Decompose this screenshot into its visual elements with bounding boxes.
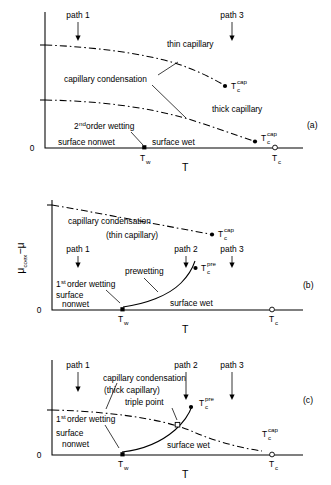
figure-canvas: 0 T c cap T c cap path 1 path 3 thin cap… xyxy=(0,0,331,485)
panel-c-path-2-arrowhead xyxy=(183,395,188,401)
panel-c-triple-point-marker xyxy=(175,422,180,427)
panel-a-cc-leader-lower xyxy=(152,85,186,118)
panel-b-path-1-arrowhead xyxy=(75,263,80,269)
svg-text:w: w xyxy=(145,158,151,165)
panel-b-tc-cap-label: T c cap xyxy=(218,226,235,241)
panel-c-tw-marker xyxy=(120,452,124,456)
panel-c-tc-tick-label: T c xyxy=(269,459,278,471)
svg-text:cap: cap xyxy=(268,426,279,433)
yaxis-coex-sub: coex xyxy=(21,254,28,268)
panel-b-wetting-leader xyxy=(106,290,120,303)
panel-b-path-3-label: path 3 xyxy=(220,244,244,254)
panel-a-label: (a) xyxy=(307,120,318,130)
svg-text:c: c xyxy=(237,86,240,93)
panel-c-path-3-arrowhead xyxy=(229,395,234,401)
panel-a-wetting-leader xyxy=(131,132,143,145)
panel-b-yaxis-label: μcoex−μ xyxy=(14,242,28,273)
panel-c-tw-tick-label: T w xyxy=(118,459,129,471)
svg-text:c: c xyxy=(275,319,278,326)
panel-c: 0 T c cap T c pre path 1 path 2 path 3 c… xyxy=(37,360,313,480)
panel-c-triple-point-leader xyxy=(172,408,177,420)
panel-a-path-1-arrowhead xyxy=(75,36,80,42)
panel-b-surface-nonwet-2: nonwet xyxy=(62,299,90,309)
panel-a-cc-leader-upper xyxy=(158,62,178,75)
panel-c-first-order-wetting-label: 1 st order wetting xyxy=(56,413,116,425)
panel-c-surface-nonwet-2: nonwet xyxy=(62,439,90,449)
svg-text:c: c xyxy=(207,268,210,275)
panel-a-tc-marker xyxy=(273,145,278,150)
panel-c-path-2-label: path 2 xyxy=(174,360,198,370)
svg-text:T: T xyxy=(262,429,267,439)
svg-text:order wetting: order wetting xyxy=(67,279,116,289)
panel-a-tc-cap-thin-marker xyxy=(223,84,227,88)
svg-text:c: c xyxy=(268,434,271,441)
panel-a-surface-nonwet-label: surface nonwet xyxy=(58,137,115,147)
svg-text:order wetting: order wetting xyxy=(86,121,135,131)
panel-a-path-3-label: path 3 xyxy=(220,10,244,20)
panel-b-zero-label: 0 xyxy=(37,305,42,315)
panel-c-wetting-leader xyxy=(105,425,119,448)
panel-c-path-1-label: path 1 xyxy=(66,360,90,370)
panel-c-path-3-label: path 3 xyxy=(220,360,244,370)
panel-c-path-1-arrowhead xyxy=(75,387,80,393)
svg-text:T: T xyxy=(261,133,266,143)
svg-text:c: c xyxy=(275,464,278,471)
panel-a-path-3-arrowhead xyxy=(229,36,234,42)
panel-b-tw-marker xyxy=(120,307,124,311)
svg-text:T: T xyxy=(118,314,123,324)
panel-a-surface-wet-label: surface wet xyxy=(152,137,195,147)
panel-b-path-2-label: path 2 xyxy=(174,244,198,254)
yaxis-mu2: μ xyxy=(14,242,26,248)
panel-a-path-1-label: path 1 xyxy=(66,10,90,20)
svg-text:order wetting: order wetting xyxy=(67,414,116,424)
svg-text:T: T xyxy=(218,229,223,239)
panel-b-first-order-wetting-label: 1 st order wetting xyxy=(56,278,116,290)
panel-b-thin-capillary-paren-label: (thin capillary) xyxy=(106,230,158,240)
svg-text:cap: cap xyxy=(267,130,278,137)
panel-a-capillary-condensation-label: capillary condensation xyxy=(64,74,147,84)
svg-text:T: T xyxy=(269,314,274,324)
panel-a-tc-tick-label: T c xyxy=(272,153,281,165)
panel-b-path-1-label: path 1 xyxy=(66,244,90,254)
svg-text:T: T xyxy=(118,459,123,469)
svg-text:T: T xyxy=(231,81,236,91)
panel-a-tc-cap-thick-marker xyxy=(253,139,257,143)
panel-b-tc-marker xyxy=(270,307,275,312)
svg-text:T: T xyxy=(199,398,204,408)
svg-text:c: c xyxy=(278,158,281,165)
panel-b-tc-pre-label: T c pre xyxy=(201,260,217,275)
panel-b-tc-tick-label: T c xyxy=(269,314,278,326)
panel-c-surface-nonwet-1: surface xyxy=(56,428,84,438)
panel-a-thin-capillary-label: thin capillary xyxy=(167,39,214,49)
panel-c-xaxis-label: T xyxy=(182,468,189,480)
panel-c-label: (c) xyxy=(303,395,313,405)
panel-b-path-3-arrowhead xyxy=(229,263,234,269)
panel-a-tw-marker xyxy=(142,145,146,149)
svg-text:T: T xyxy=(201,263,206,273)
panel-b-prewetting-leader xyxy=(144,278,158,292)
panel-a-tc-cap-thin-label: T c cap xyxy=(231,78,248,93)
panel-b-prewetting-label: prewetting xyxy=(125,266,164,276)
svg-text:c: c xyxy=(267,138,270,145)
svg-text:w: w xyxy=(123,464,129,471)
panel-b-tc-cap-marker xyxy=(210,232,214,236)
panel-a: 0 T c cap T c cap path 1 path 3 thin cap… xyxy=(30,10,318,173)
panel-c-tc-cap-label: T c cap xyxy=(262,426,279,441)
panel-a-thick-capillary-label: thick capillary xyxy=(212,104,263,114)
panel-b-label: (b) xyxy=(303,280,314,290)
panel-a-tc-cap-thick-label: T c cap xyxy=(261,130,278,145)
svg-text:st: st xyxy=(61,278,66,285)
svg-text:pre: pre xyxy=(205,395,215,402)
svg-text:w: w xyxy=(123,319,129,326)
svg-text:pre: pre xyxy=(207,260,217,267)
svg-text:T: T xyxy=(269,459,274,469)
panel-c-surface-wet-label: surface wet xyxy=(167,440,210,450)
phase-diagram-svg: 0 T c cap T c cap path 1 path 3 thin cap… xyxy=(0,0,331,485)
svg-text:st: st xyxy=(61,413,66,420)
panel-c-capillary-condensation-label: capillary condensation xyxy=(103,373,186,383)
panel-c-tc-pre-marker xyxy=(189,405,193,409)
panel-c-zero-label: 0 xyxy=(37,450,42,460)
svg-text:c: c xyxy=(224,234,227,241)
svg-text:μcoex−μ: μcoex−μ xyxy=(14,242,28,273)
panel-a-xaxis-label: T xyxy=(182,161,189,173)
